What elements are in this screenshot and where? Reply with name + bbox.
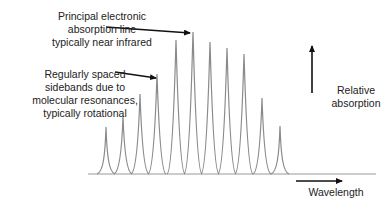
label-line: Regularly spaced <box>10 68 160 81</box>
label-line: absorption <box>326 97 386 110</box>
label-line: typically rotational <box>10 107 160 120</box>
principal-line-label: Principal electronic absorption line typ… <box>22 10 182 49</box>
label-line: absorption line <box>22 23 182 36</box>
sidebands-label: Regularly spaced sidebands due to molecu… <box>10 68 160 120</box>
relative-absorption-label: Relative absorption <box>326 84 386 110</box>
label-line: sidebands due to <box>10 81 160 94</box>
label-line: Relative <box>326 84 386 97</box>
label-line: typically near infrared <box>22 36 182 49</box>
label-line: molecular resonances, <box>10 94 160 107</box>
label-line: Principal electronic <box>22 10 182 23</box>
wavelength-label: Wavelength <box>296 186 376 199</box>
